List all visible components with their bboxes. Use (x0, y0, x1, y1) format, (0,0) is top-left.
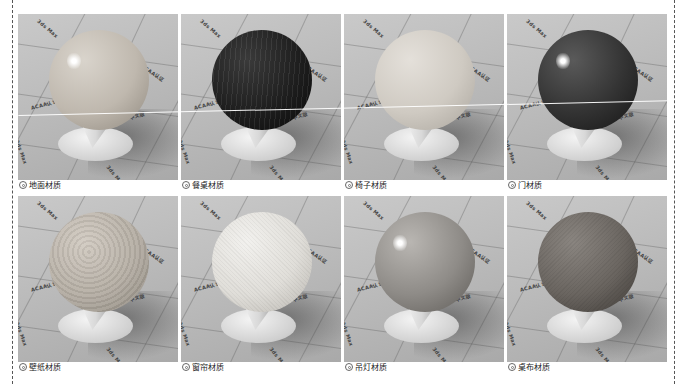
material-sphere (212, 30, 312, 130)
material-label: 门材质 (518, 181, 542, 190)
floor-watermark: 3ds Max (344, 321, 355, 347)
floor-watermark: 3ds Max (507, 321, 518, 347)
material-label: 吊灯材质 (355, 363, 387, 372)
material-render-panel: 3ds Max ACAA认证 ACAA认证 中文版 3ds Max 3ds Ma… (507, 196, 667, 362)
material-sphere (375, 212, 475, 312)
right-dashed-border (674, 0, 675, 384)
floor-watermark: 3ds Max (199, 18, 222, 39)
floor-watermark: 3ds Max (181, 321, 192, 347)
material-label: 桌布材质 (518, 363, 550, 372)
material-sphere (375, 30, 475, 130)
material-cell: 3ds Max ACAA认证 ACAA认证 中文版 3ds Max 3ds Ma… (344, 196, 504, 374)
material-caption: 椅子材质 (344, 180, 504, 192)
floor-watermark: 3ds Max (199, 200, 222, 221)
material-label: 椅子材质 (355, 181, 387, 190)
material-caption: 吊灯材质 (344, 362, 504, 374)
material-cell: 3ds Max ACAA认证 ACAA认证 中文版 3ds Max 3ds Ma… (507, 196, 667, 374)
circled-dot-icon (508, 181, 516, 189)
circled-dot-icon (345, 363, 353, 371)
material-cell: 3ds Max ACAA认证 ACAA认证 中文版 3ds Max 3ds Ma… (344, 14, 504, 192)
material-label: 窗帘材质 (192, 363, 224, 372)
floor-watermark: 3ds Max (18, 139, 29, 165)
material-label: 地面材质 (29, 181, 61, 190)
material-sphere (212, 212, 312, 312)
material-sphere (49, 30, 149, 130)
circled-dot-icon (19, 363, 27, 371)
material-sphere (538, 30, 638, 130)
specular-highlight (393, 234, 407, 252)
floor-watermark: 3ds Max (525, 200, 548, 221)
material-render-panel: 3ds Max ACAA认证 ACAA认证 中文版 3ds Max 3ds Ma… (344, 14, 504, 180)
material-cell: 3ds Max ACAA认证 ACAA认证 中文版 3ds Max 3ds Ma… (18, 196, 178, 374)
material-label: 餐桌材质 (192, 181, 224, 190)
material-caption: 壁纸材质 (18, 362, 178, 374)
left-dashed-border (12, 0, 13, 384)
floor-watermark: 3ds Max (362, 200, 385, 221)
material-render-panel: 3ds Max ACAA认证 ACAA认证 中文版 3ds Max 3ds Ma… (18, 196, 178, 362)
material-cell: 3ds Max ACAA认证 ACAA认证 中文版 3ds Max 3ds Ma… (18, 14, 178, 192)
floor-watermark: 3ds Max (18, 321, 29, 347)
circled-dot-icon (182, 181, 190, 189)
floor-watermark: 3ds Max (181, 139, 192, 165)
material-render-panel: 3ds Max ACAA认证 ACAA认证 中文版 3ds Max 3ds Ma… (344, 196, 504, 362)
circled-dot-icon (345, 181, 353, 189)
material-caption: 地面材质 (18, 180, 178, 192)
material-caption: 桌布材质 (507, 362, 667, 374)
circled-dot-icon (182, 363, 190, 371)
material-caption: 门材质 (507, 180, 667, 192)
material-sphere (49, 212, 149, 312)
specular-highlight (67, 52, 81, 70)
floor-watermark: 3ds Max (36, 18, 59, 39)
floor-watermark: 3ds Max (344, 139, 355, 165)
material-caption: 窗帘材质 (181, 362, 341, 374)
floor-watermark: 3ds Max (507, 139, 518, 165)
material-sphere (538, 212, 638, 312)
circled-dot-icon (19, 181, 27, 189)
floor-watermark: 3ds Max (362, 18, 385, 39)
floor-watermark: 3ds Max (525, 18, 548, 39)
floor-watermark: 3ds Max (36, 200, 59, 221)
circled-dot-icon (508, 363, 516, 371)
material-label: 壁纸材质 (29, 363, 61, 372)
material-render-panel: 3ds Max ACAA认证 ACAA认证 中文版 3ds Max 3ds Ma… (507, 14, 667, 180)
specular-highlight (556, 52, 570, 70)
material-render-panel: 3ds Max ACAA认证 ACAA认证 中文版 3ds Max 3ds Ma… (181, 14, 341, 180)
material-render-panel: 3ds Max ACAA认证 ACAA认证 中文版 3ds Max 3ds Ma… (18, 14, 178, 180)
material-cell: 3ds Max ACAA认证 ACAA认证 中文版 3ds Max 3ds Ma… (181, 14, 341, 192)
material-render-panel: 3ds Max ACAA认证 ACAA认证 中文版 3ds Max 3ds Ma… (181, 196, 341, 362)
material-cell: 3ds Max ACAA认证 ACAA认证 中文版 3ds Max 3ds Ma… (181, 196, 341, 374)
material-caption: 餐桌材质 (181, 180, 341, 192)
